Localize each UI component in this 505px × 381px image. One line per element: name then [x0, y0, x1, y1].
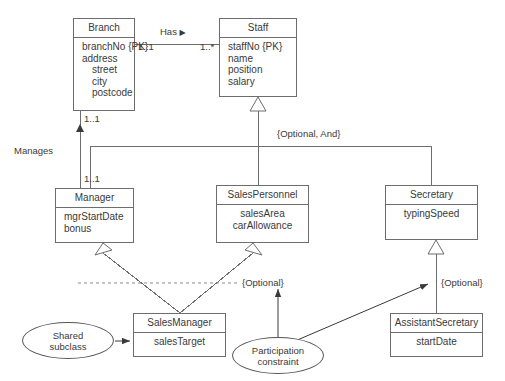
multiplicity-branch-has: 1..1 — [138, 41, 154, 52]
attribute: position — [228, 64, 292, 76]
constraint-optional-right: {Optional} — [441, 277, 483, 288]
class-branch-attributes: branchNo {PK} address street city postco… — [74, 38, 134, 102]
multiplicity-staff-has: 1..* — [200, 41, 214, 52]
attribute: address — [82, 53, 130, 65]
attribute: postcode — [82, 87, 130, 99]
manages-direction-triangle — [76, 124, 84, 132]
participation-constraint-line2: constraint — [252, 356, 304, 367]
multiplicity-branch-manages: 1..1 — [84, 113, 100, 124]
attribute: startDate — [395, 336, 478, 348]
class-assistantsecretary-name: AssistantSecretary — [391, 314, 482, 333]
assoc-has-label: Has — [160, 26, 177, 37]
class-salespersonnel[interactable]: SalesPersonnel salesArea carAllowance — [216, 185, 309, 243]
attribute: bonus — [64, 223, 129, 235]
attribute: branchNo {PK} — [82, 41, 130, 53]
class-salespersonnel-name: SalesPersonnel — [217, 186, 308, 205]
shared-subclass-line2: subclass — [50, 341, 87, 352]
attribute: salesTarget — [138, 336, 221, 348]
generalization-triangle-salespersonnel — [245, 243, 262, 255]
attribute: salary — [228, 76, 292, 88]
attribute: street — [82, 64, 130, 76]
participation-constraint-line1: Participation — [252, 345, 304, 356]
class-staff[interactable]: Staff staffNo {PK} name position salary — [219, 18, 297, 97]
class-salesmanager[interactable]: SalesManager salesTarget — [133, 313, 226, 357]
multiplicity-manager-manages: 1..1 — [84, 173, 100, 184]
assoc-has-label-group: Has ▶ — [160, 26, 186, 38]
class-secretary-name: Secretary — [386, 186, 477, 205]
attribute: mgrStartDate — [64, 211, 129, 223]
attribute: salesArea — [221, 208, 304, 220]
assoc-manages-label: Manages — [14, 145, 53, 156]
generalization-triangle-secretary — [428, 240, 444, 254]
attribute: carAllowance — [221, 220, 304, 232]
constraint-optional-and: {Optional, And} — [277, 128, 340, 139]
class-staff-name: Staff — [220, 19, 296, 38]
uml-class-diagram: Branch branchNo {PK} address street city… — [0, 0, 505, 381]
attribute: name — [228, 53, 292, 65]
class-secretary[interactable]: Secretary typingSpeed — [385, 185, 478, 240]
class-salespersonnel-attributes: salesArea carAllowance — [217, 205, 308, 234]
class-salesmanager-attributes: salesTarget — [134, 333, 225, 351]
class-assistantsecretary[interactable]: AssistantSecretary startDate — [390, 313, 483, 357]
class-branch-name: Branch — [74, 19, 134, 38]
class-salesmanager-name: SalesManager — [134, 314, 225, 333]
class-manager-attributes: mgrStartDate bonus — [56, 208, 133, 237]
annotation-shared-subclass[interactable]: Shared subclass — [22, 322, 114, 359]
attribute: staffNo {PK} — [228, 41, 292, 53]
class-secretary-attributes: typingSpeed — [386, 205, 477, 223]
class-manager[interactable]: Manager mgrStartDate bonus — [55, 188, 134, 243]
class-branch[interactable]: Branch branchNo {PK} address street city… — [73, 18, 135, 111]
constraint-optional-left: {Optional} — [242, 277, 284, 288]
class-manager-name: Manager — [56, 189, 133, 208]
class-staff-attributes: staffNo {PK} name position salary — [220, 38, 296, 90]
attribute: city — [82, 76, 130, 88]
class-assistantsecretary-attributes: startDate — [391, 333, 482, 351]
generalization-triangle-staff — [250, 97, 266, 111]
annotation-participation-constraint[interactable]: Participation constraint — [232, 337, 324, 374]
shared-subclass-line1: Shared — [50, 330, 87, 341]
assoc-has-direction-marker: ▶ — [180, 28, 186, 37]
attribute: typingSpeed — [390, 208, 473, 220]
